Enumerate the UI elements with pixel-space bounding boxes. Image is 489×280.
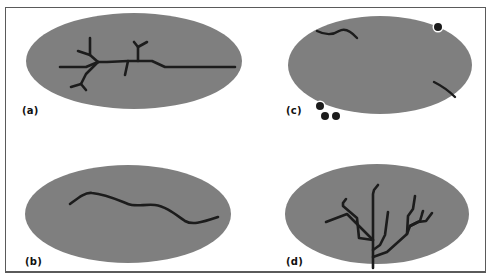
panel-label-c: (c) xyxy=(286,105,302,116)
panel-d xyxy=(285,164,469,268)
dot-icon xyxy=(316,102,324,110)
region-ellipse-b xyxy=(25,165,231,263)
panel-label-b: (b) xyxy=(25,256,42,267)
panel-c xyxy=(288,16,472,120)
dot-icon xyxy=(332,112,340,120)
panel-a xyxy=(26,13,242,109)
panel-label-d: (d) xyxy=(286,256,303,267)
panel-label-a: (a) xyxy=(22,105,39,116)
figure-canvas xyxy=(0,0,489,280)
region-ellipse-c xyxy=(288,16,472,114)
panel-b xyxy=(25,165,231,263)
dot-icon xyxy=(434,23,442,31)
dot-icon xyxy=(321,112,329,120)
region-ellipse-d xyxy=(285,164,469,264)
